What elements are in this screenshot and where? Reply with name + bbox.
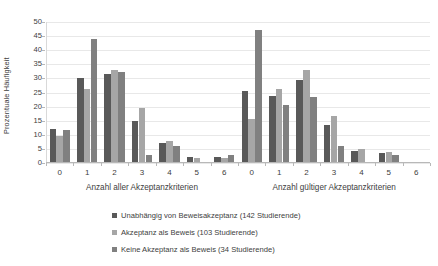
x-axis-tick-mark [128,163,129,166]
y-axis-tick-mark [42,121,45,122]
bar [242,91,249,163]
x-axis-tick-label: 0 [240,168,264,177]
y-axis-tick-label: 5 [16,145,42,153]
bar-group [128,22,155,163]
bar-group [211,22,238,163]
bar [310,97,317,163]
bar [296,80,303,163]
legend-swatch-icon [112,230,117,235]
chart-legend: Unabhängig von Beweisakzeptanz (142 Stud… [112,207,412,258]
x-axis-tick-label: 1 [267,168,291,177]
y-axis-tick-label: 45 [16,32,42,40]
bar [269,96,276,163]
x-axis-tick-mark [101,163,102,166]
bar-group [293,22,320,163]
bar [173,146,180,163]
y-axis-tick-mark [42,36,45,37]
legend-item[interactable]: Unabhängig von Beweisakzeptanz (142 Stud… [112,207,412,224]
legend-item-label: Keine Akzeptanz als Beweis (34 Studieren… [121,245,275,254]
y-axis-tick-label: 0 [16,159,42,167]
x-axis-tick-mark [293,163,294,166]
x-axis-tick-label: 1 [75,168,99,177]
bar [255,30,262,163]
y-axis-tick-mark [42,93,45,94]
x-axis-tick-label: 6 [404,168,428,177]
x-axis-tick-mark [211,163,212,166]
x-axis-tick-mark [73,163,74,166]
bar-chart-figure: Prozentuale Häufigkeit 05101520253035404… [0,0,438,266]
y-axis-tick-mark [42,78,45,79]
legend-item[interactable]: Keine Akzeptanz als Beweis (34 Studieren… [112,241,412,258]
bar [56,136,63,163]
bar-group [265,22,292,163]
y-axis-tick-labels: 05101520253035404550 [12,0,42,266]
bar [166,141,173,163]
y-axis-tick-mark [42,22,45,23]
legend-swatch-icon [112,247,117,252]
bar [276,89,283,163]
bar [118,72,125,163]
x-axis-tick-label: 4 [157,168,181,177]
bar-group [183,22,210,163]
plot-area [46,22,430,163]
x-axis-tick-mark [375,163,376,166]
bar-group [46,22,73,163]
x-axis-tick-label: 5 [185,168,209,177]
bar [50,129,57,163]
y-axis-tick-label: 50 [16,18,42,26]
x-axis-tick-mark [430,163,431,166]
x-axis-tick-mark [265,163,266,166]
bar [139,108,146,163]
bar [248,119,255,163]
bar [283,105,290,163]
x-axis-tick-label: 3 [130,168,154,177]
bar-group [403,22,430,163]
bar [331,116,338,163]
bar [159,143,166,163]
y-axis-line [46,22,47,163]
bar-group [156,22,183,163]
x-axis-section-label: Anzahl gültiger Akzeptanzkriterien [273,183,396,192]
x-axis-tick-label: 5 [377,168,401,177]
x-axis-section-label: Anzahl aller Akzeptanzkriterien [86,183,198,192]
bar-group [320,22,347,163]
bar [104,74,111,163]
bar [303,70,310,163]
bar [358,149,365,163]
legend-item-label: Akzeptanz als Beweis (103 Studierende) [121,228,258,237]
y-axis-tick-mark [42,107,45,108]
bar-group [348,22,375,163]
y-axis-tick-mark [42,135,45,136]
x-axis-tick-label: 4 [349,168,373,177]
y-axis-tick-mark [42,50,45,51]
y-axis-tick-label: 40 [16,46,42,54]
y-axis-tick-label: 15 [16,117,42,125]
bar [77,78,84,163]
x-axis-tick-label: 2 [103,168,127,177]
y-axis-tick-label: 10 [16,131,42,139]
bar-group [375,22,402,163]
bar-group [238,22,265,163]
x-axis-tick-label: 3 [322,168,346,177]
x-axis-tick-mark [320,163,321,166]
x-axis-tick-label: 0 [48,168,72,177]
bar-group [101,22,128,163]
bar [63,130,70,163]
x-axis-tick-mark [238,163,239,166]
legend-swatch-icon [112,213,117,218]
legend-item[interactable]: Akzeptanz als Beweis (103 Studierende) [112,224,412,241]
bar [338,146,345,163]
y-axis-tick-label: 25 [16,89,42,97]
y-axis-tick-mark [42,64,45,65]
x-axis-tick-mark [403,163,404,166]
bar [324,125,331,163]
bar [132,121,139,163]
x-axis-tick-mark [183,163,184,166]
y-axis-tick-mark [42,149,45,150]
y-axis-tick-label: 35 [16,60,42,68]
x-axis-tick-mark [348,163,349,166]
y-axis-title: Prozentuale Häufigkeit [2,122,11,134]
bar-group [73,22,100,163]
bar [84,89,91,163]
x-axis-tick-label: 6 [212,168,236,177]
